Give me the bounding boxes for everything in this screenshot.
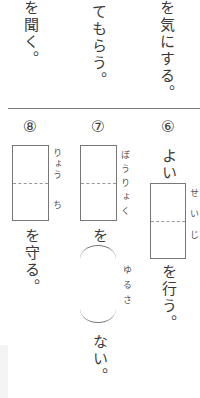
question-number-7: ⑦: [88, 117, 108, 136]
question-6-answer-box[interactable]: [150, 183, 186, 259]
column-left-text: を聞く。: [22, 0, 37, 68]
question-7-particle: を: [91, 228, 106, 245]
question-7-paren-close: [80, 309, 116, 323]
question-7-furigana: ぼうりょく: [120, 150, 129, 220]
question-6-prefix: よい: [160, 148, 175, 182]
question-8-furigana-top: りょう: [52, 148, 61, 181]
box-midline: [13, 183, 48, 184]
question-7-suffix: ない。: [91, 334, 106, 385]
box-midline: [151, 221, 185, 222]
question-8-answer-box[interactable]: [12, 145, 49, 221]
question-6-suffix: を行う。: [160, 264, 175, 332]
section-divider: [8, 108, 200, 109]
page-edge-shadow: [0, 345, 8, 398]
question-8-furigana-bottom: ち: [52, 200, 61, 209]
question-6-furigana: せいじ: [189, 188, 198, 251]
question-7-paren-furigana: ゆるさ: [122, 265, 131, 310]
question-8-suffix: を守る。: [23, 228, 38, 296]
question-7-answer-box[interactable]: [80, 145, 117, 221]
question-number-6: ⑥: [158, 117, 178, 136]
box-midline: [81, 183, 116, 184]
column-right-text: を気にする。: [158, 0, 173, 102]
question-7-paren-open: [80, 245, 116, 259]
question-number-8: ⑧: [20, 117, 40, 136]
column-middle-text: てもらう。: [90, 4, 105, 89]
